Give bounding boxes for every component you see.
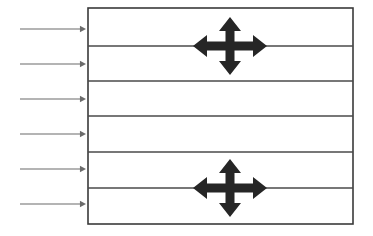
incident-arrow-6-head (80, 201, 86, 207)
incident-arrow-2-head (80, 61, 86, 67)
incident-arrow-3-head (80, 96, 86, 102)
diagram-canvas (0, 0, 373, 236)
incident-arrow-1-head (80, 26, 86, 32)
cross-arrow-upper (193, 17, 267, 75)
layer-line-group (88, 46, 353, 188)
layered-medium-diagram (0, 0, 373, 236)
incident-arrow-6 (20, 201, 86, 207)
incident-arrow-1 (20, 26, 86, 32)
incident-arrow-5-head (80, 166, 86, 172)
cross-arrow-lower (193, 159, 267, 217)
incident-arrow-5 (20, 166, 86, 172)
incident-arrow-4-head (80, 131, 86, 137)
incident-arrow-4 (20, 131, 86, 137)
incident-arrow-3 (20, 96, 86, 102)
incident-arrow-group (20, 26, 86, 207)
incident-arrow-2 (20, 61, 86, 67)
cross-arrow-group (193, 17, 267, 217)
